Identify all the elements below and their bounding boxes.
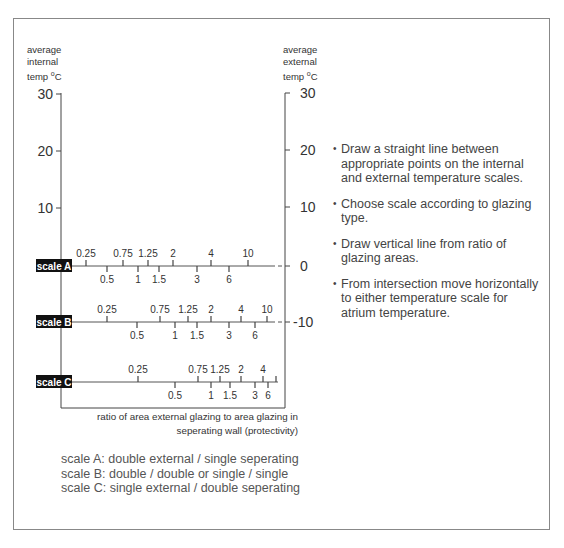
left-axis-tick-label: 10 [37,200,53,216]
instruction-item: •Draw a straight line between appropriat… [333,142,543,186]
scale-tick-label: 3 [194,274,200,285]
bullet-icon: • [333,142,337,157]
scale-tick-label: 4 [238,304,244,315]
scale-tick-label: 3 [226,330,232,341]
scale-legend: scale A: double external / single sepera… [61,452,300,496]
scale-tick-label: 1 [135,274,141,285]
legend-item-c: scale C: single external / double sepera… [61,481,300,496]
scale-tick-label: 10 [242,248,254,259]
caption-line: seperating wall (protectivity) [88,424,298,438]
x-axis-caption: ratio of area external glazing to area g… [88,410,298,438]
right-axis-tick-label: 30 [300,85,316,101]
instruction-text: From intersection move horizontally to e… [341,277,538,320]
scale-tick-label: 1.5 [190,330,204,341]
instruction-text: Draw a straight line between appropriate… [341,142,524,185]
scale-tick-label: 10 [261,304,273,315]
left-axis-tick-label: 20 [37,143,53,159]
instructions-list: •Draw a straight line between appropriat… [333,142,543,331]
instruction-text: Choose scale according to glazing type. [341,197,531,226]
scale-tick-label: 6 [226,274,232,285]
scale-tick-label: 3 [252,390,258,401]
legend-item-b: scale B: double / double or single / sin… [61,467,300,482]
bullet-icon: • [333,197,337,212]
legend-item-a: scale A: double external / single sepera… [61,452,300,467]
scale-tick-label: 2 [208,304,214,315]
scale-tick-label: 0.25 [97,304,117,315]
instruction-item: •Draw vertical line from ratio of glazin… [333,237,543,266]
scale-tick-label: 4 [260,364,266,375]
scale-label: scale A [37,261,72,272]
right-axis-tick-label: 10 [300,199,316,215]
scale-tick-label: 0.75 [113,248,133,259]
scale-label: scale C [36,377,71,388]
scale-tick-label: 1.25 [210,364,230,375]
caption-line: ratio of area external glazing to area g… [88,410,298,424]
scale-tick-label: 1 [172,330,178,341]
instruction-item: •Choose scale according to glazing type. [333,197,543,226]
scale-tick-label: 0.25 [128,364,148,375]
scale-label: scale B [36,317,71,328]
scale-tick-label: 2 [170,248,176,259]
scale-tick-label: 1.5 [223,390,237,401]
scale-tick-label: 0.5 [100,274,114,285]
scale-tick-label: 1.25 [178,304,198,315]
right-axis-tick-label: 0 [300,258,308,274]
scale-tick-label: 1.25 [138,248,158,259]
scale-tick-label: 2 [238,364,244,375]
scale-tick-label: 0.5 [168,390,182,401]
scale-tick-label: 0.75 [150,304,170,315]
bullet-icon: • [333,237,337,252]
scale-tick-label: 1 [208,390,214,401]
scale-tick-label: 6 [252,330,258,341]
scale-tick-label: 0.75 [188,364,208,375]
scale-tick-label: 6 [265,390,271,401]
right-axis-tick-label: -10 [293,314,313,330]
scale-tick-label: 1.5 [152,274,166,285]
bullet-icon: • [333,277,337,292]
scale-tick-label: 0.25 [76,248,96,259]
scale-tick-label: 4 [208,248,214,259]
right-axis-tick-label: 20 [300,142,316,158]
scale-tick-label: 0.5 [130,330,144,341]
instruction-text: Draw vertical line from ratio of glazing… [341,237,506,266]
left-axis-tick-label: 30 [37,86,53,102]
instruction-item: •From intersection move horizontally to … [333,277,543,321]
